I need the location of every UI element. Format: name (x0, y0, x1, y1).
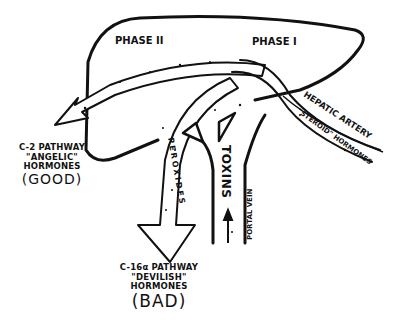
c2-pathway-label: C-2 PATHWAY "ANGELIC" HORMONES (GOOD) (18, 143, 86, 187)
portal-vein-label: PORTAL VEIN (246, 188, 254, 240)
c2-pathway-verdict: (GOOD) (18, 172, 86, 188)
toxins-label: TOXINS (219, 145, 233, 198)
liver-metabolism-diagram: PHASE II PHASE I HEPATIC ARTERY "STEROID… (0, 0, 401, 329)
phase-2-label: PHASE II (115, 35, 163, 46)
toxins-flow-arrow-icon (224, 210, 232, 243)
portal-vein-branch-right (219, 113, 235, 141)
c16-pathway-label: C-16α PATHWAY "DEVILISH" HORMONES (BAD) (114, 263, 204, 311)
phase-1-label: PHASE I (252, 36, 297, 47)
c16-pathway-verdict: (BAD) (114, 292, 204, 311)
